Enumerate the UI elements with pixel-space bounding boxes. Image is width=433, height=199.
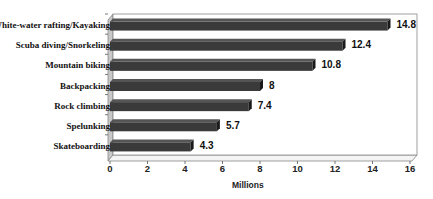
category-label: Skateboarding [53, 141, 110, 151]
value-label: 8 [269, 80, 275, 91]
bar [110, 22, 388, 31]
bar [110, 82, 260, 91]
value-label: 12.4 [352, 39, 371, 50]
bar-top-face [110, 79, 263, 82]
chart-floor [108, 155, 417, 161]
x-tick-label: 2 [145, 163, 150, 174]
x-tick-label: 14 [367, 163, 378, 174]
value-label: 10.8 [322, 59, 341, 70]
x-tick-label: 8 [257, 163, 262, 174]
value-label: 5.7 [226, 120, 240, 131]
bar-top-face [110, 139, 194, 142]
category-label: Backpacking [60, 81, 110, 91]
x-tick-label: 12 [330, 163, 341, 174]
category-label: Mountain biking [45, 60, 110, 70]
bar [110, 122, 217, 131]
value-label: 14.8 [397, 19, 416, 30]
bar-chart: White-water rafting/Kayaking14.8Scuba di… [0, 0, 433, 199]
category-label: Spelunking [66, 121, 110, 131]
x-tick-label: 10 [292, 163, 303, 174]
category-label: Scuba diving/Snorkeling [16, 40, 110, 50]
bar-top-face [110, 119, 220, 122]
x-axis-title: Millions [232, 180, 264, 190]
bar-top-face [110, 59, 316, 62]
category-label: White-water rafting/Kayaking [0, 20, 110, 30]
x-tick-label: 4 [182, 163, 187, 174]
bar [110, 62, 313, 71]
bar [110, 42, 343, 51]
bar-top-face [110, 39, 346, 42]
bar [110, 142, 191, 151]
category-label: Rock climbing [54, 101, 110, 111]
x-tick-label: 0 [107, 163, 112, 174]
bar-top-face [110, 19, 391, 22]
value-label: 7.4 [258, 100, 272, 111]
bar [110, 102, 249, 111]
value-label: 4.3 [200, 140, 214, 151]
bar-top-face [110, 99, 252, 102]
x-tick-label: 6 [220, 163, 225, 174]
x-tick-label: 16 [405, 163, 416, 174]
